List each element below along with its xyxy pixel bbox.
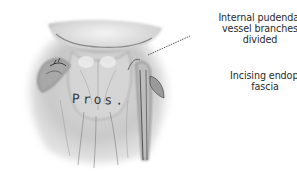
- prostate-gland: [68, 52, 131, 120]
- label-line: vessel branches: [212, 23, 297, 34]
- label-endopelvic-fascia: Incising endopelvic fascia: [230, 70, 297, 92]
- prostate-illustration: [0, 0, 200, 178]
- label-vessel-branches: Internal pudendal vessel branches divide…: [212, 12, 297, 45]
- anatomical-figure: Pros. Internal pudendal vessel branches …: [0, 0, 297, 178]
- label-line: divided: [212, 34, 297, 45]
- label-line: Internal pudendal: [212, 12, 297, 23]
- organ-label-prostate: Pros.: [72, 91, 127, 108]
- label-line: fascia: [230, 81, 297, 92]
- label-line: Incising endopelvic: [230, 70, 297, 81]
